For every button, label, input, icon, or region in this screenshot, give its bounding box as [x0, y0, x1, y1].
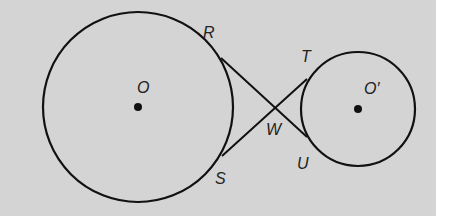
label-s: S	[215, 170, 226, 187]
center-dot-o-prime	[354, 105, 362, 113]
label-o-prime: O′	[364, 80, 380, 97]
label-w: W	[266, 121, 283, 138]
tangent-circles-diagram: O O′ R S T U W	[0, 0, 453, 216]
label-t: T	[301, 48, 312, 65]
diagram-canvas: O O′ R S T U W	[0, 0, 453, 216]
center-dot-o	[134, 103, 142, 111]
label-r: R	[203, 24, 215, 41]
label-o: O	[137, 79, 149, 96]
label-u: U	[297, 155, 309, 172]
